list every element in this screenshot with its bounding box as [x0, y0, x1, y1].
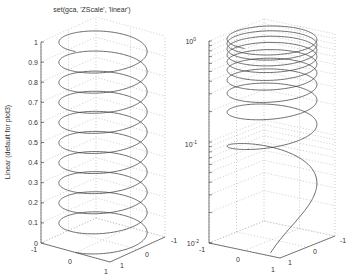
right-x-tick: 0	[236, 256, 240, 263]
grid-line	[209, 150, 335, 172]
right-x-tick: -1	[199, 246, 205, 253]
grid-line	[41, 218, 165, 243]
left-axes: set(gca, 'ZScale', 'linear') 00.10.20.30…	[4, 6, 177, 275]
right-z-tick-0: 100	[185, 36, 196, 45]
left-y-tick: 1	[120, 262, 124, 269]
grid-line	[209, 191, 335, 213]
left-title: set(gca, 'ZScale', 'linear')	[53, 6, 130, 14]
grid-line	[41, 178, 165, 203]
left-z-tick-label: 0.8	[28, 79, 38, 86]
grid-line	[209, 130, 335, 152]
left-x-tick: 0	[68, 258, 72, 265]
grid-line	[41, 77, 165, 102]
left-y-tick: -1	[171, 237, 177, 244]
right-y-tick: -1	[340, 237, 346, 244]
right-z-tick-m2: 10-2	[187, 238, 199, 247]
left-z-tick-label: 0.4	[28, 159, 38, 166]
grid-line	[41, 97, 165, 122]
grid-line	[209, 160, 335, 182]
right-y-axis	[280, 236, 335, 258]
right-z-ticks	[209, 41, 212, 243]
right-x-axis	[209, 243, 280, 258]
figure: set(gca, 'ZScale', 'linear') 00.10.20.30…	[0, 0, 360, 279]
left-y-axis	[110, 237, 165, 262]
left-x-tick: 1	[104, 268, 108, 275]
left-z-label: Linear (default for plot3)	[4, 105, 12, 179]
right-z-tick-m1: 10-1	[185, 139, 197, 148]
left-x-tick: -1	[31, 246, 37, 253]
left-z-tick-label: 1	[34, 39, 38, 46]
left-y-tick: 0	[145, 251, 149, 258]
grid-line	[209, 136, 335, 158]
right-y-tick: 1	[288, 259, 292, 266]
grid-line	[41, 17, 165, 42]
left-z-tick-label: 0.2	[28, 199, 38, 206]
grid-line	[41, 198, 165, 223]
grid-line	[41, 118, 165, 143]
left-z-tick-label: 0.3	[28, 179, 38, 186]
left-z-tick-label: 0.5	[28, 139, 38, 146]
left-helix-line	[59, 31, 147, 254]
right-x-tick: 1	[271, 266, 275, 273]
left-z-ticks: 00.10.20.30.40.50.60.70.80.91	[28, 39, 44, 247]
left-z-tick-label: 0.9	[28, 59, 38, 66]
right-axes: 100 10-1 10-2 -1 0 1 1 0 -1	[185, 19, 346, 273]
left-z-tick-label: 0.1	[28, 219, 38, 226]
left-z-tick-label: 0.6	[28, 119, 38, 126]
grid-line	[41, 37, 165, 62]
grid-line	[237, 232, 308, 247]
grid-line	[41, 57, 165, 82]
grid-line	[209, 120, 335, 142]
right-y-tick: 0	[313, 248, 317, 255]
grid-line	[41, 158, 165, 183]
grid-line	[76, 228, 131, 253]
grid-line	[209, 90, 335, 112]
left-z-tick-label: 0.7	[28, 99, 38, 106]
grid-line	[41, 138, 165, 163]
